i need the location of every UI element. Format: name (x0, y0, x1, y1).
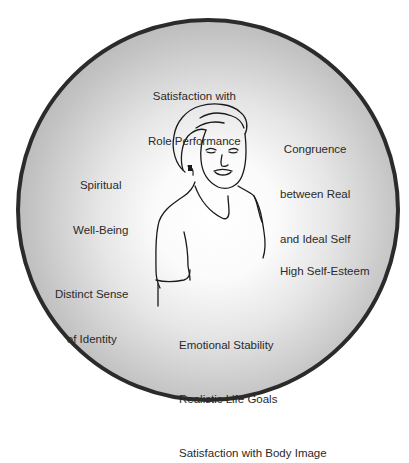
label-line: Spiritual (73, 178, 128, 193)
neckline (195, 186, 229, 219)
label-line: Congruence (280, 142, 350, 157)
label-realistic-life-goals: Realistic Life Goals (179, 390, 327, 408)
label-line: High Self-Esteem (280, 264, 369, 279)
label-line: Satisfaction with (148, 89, 241, 104)
label-high-self-esteem: High Self-Esteem (280, 234, 369, 309)
arm-left-inner (184, 232, 190, 280)
label-line: of Identity (55, 332, 129, 347)
label-spiritual-well-being: Spiritual Well-Being (73, 148, 128, 268)
label-role-performance: Satisfaction with Role Performance (148, 59, 241, 179)
label-line: Role Performance (148, 134, 241, 149)
sleeve-left (156, 270, 190, 282)
label-body-image: Satisfaction with Body Image (179, 444, 327, 462)
label-distinct-identity: Distinct Sense of Identity (55, 257, 129, 377)
label-line: Distinct Sense (55, 287, 129, 302)
label-bottom-list: Emotional Stability Realistic Life Goals… (179, 300, 327, 463)
torso-right (254, 196, 265, 258)
label-line: between Real (280, 187, 350, 202)
label-line: Well-Being (73, 223, 128, 238)
label-emotional-stability: Emotional Stability (179, 336, 327, 354)
